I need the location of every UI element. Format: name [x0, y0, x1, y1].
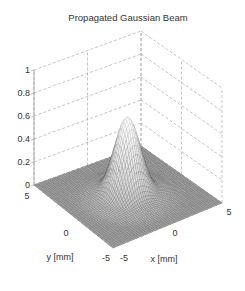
z-tick-labels: 1 0.8 0.6 0.4 0.2 0 — [17, 65, 30, 190]
axes — [31, 70, 34, 186]
z-tick-label: 0.8 — [17, 88, 30, 98]
x-tick-label: 0 — [172, 228, 177, 238]
y-axis-label: y [mm] — [47, 252, 74, 262]
y-tick-label: -5 — [102, 253, 110, 263]
x-tick-label: 5 — [226, 207, 231, 217]
surface-mesh — [34, 117, 222, 248]
x-tick-label: -5 — [120, 253, 128, 263]
z-tick-label: 0 — [25, 180, 30, 190]
x-axis-label: x [mm] — [151, 254, 178, 264]
z-tick-label: 0.4 — [17, 134, 30, 144]
z-tick-label: 0.6 — [17, 111, 30, 121]
z-tick-label: 0.2 — [17, 157, 30, 167]
y-tick-label: 0 — [63, 228, 68, 238]
z-tick-label: 1 — [25, 65, 30, 75]
chart-title: Propagated Gaussian Beam — [68, 12, 187, 23]
y-tick-label: 5 — [24, 191, 29, 201]
surface-plot: Propagated Gaussian Beam 1 0.8 0.6 0.4 0… — [0, 0, 245, 291]
